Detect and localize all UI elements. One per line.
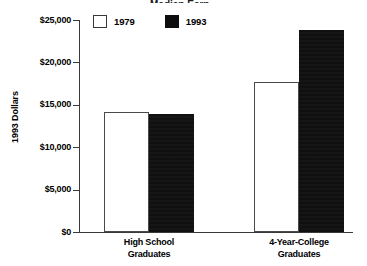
y-axis-tick-label: $20,000 bbox=[0, 58, 71, 67]
bar-1979-college bbox=[254, 82, 299, 232]
y-axis-tick bbox=[73, 232, 79, 233]
open-square-swatch bbox=[93, 15, 107, 28]
y-axis-tick bbox=[73, 62, 79, 63]
category-label-line: Graduates bbox=[239, 249, 359, 261]
category-label-line: Graduates bbox=[89, 249, 209, 261]
category-label-college: 4-Year-CollegeGraduates bbox=[239, 237, 359, 260]
bar-chart: Median Earnings 1993 Dollars $0$5,000$10… bbox=[0, 0, 367, 266]
legend-item-1979[interactable]: 1979 bbox=[93, 15, 135, 28]
y-axis-tick bbox=[73, 20, 79, 21]
filled-square-swatch bbox=[165, 15, 179, 28]
y-axis-tick-label: $25,000 bbox=[0, 16, 71, 25]
y-axis-tick-label: $15,000 bbox=[0, 100, 71, 109]
y-axis-tick bbox=[73, 105, 79, 106]
legend-item-label: 1979 bbox=[114, 17, 135, 27]
y-axis-line bbox=[79, 20, 80, 233]
y-axis-tick bbox=[73, 147, 79, 148]
chart-legend: 19791993 bbox=[93, 15, 206, 28]
bar-1979-high-school bbox=[104, 112, 149, 232]
y-axis-tick-label: $0 bbox=[0, 228, 71, 237]
y-axis-tick-label: $5,000 bbox=[0, 185, 71, 194]
category-label-line: High School bbox=[89, 237, 209, 249]
bar-1993-college bbox=[299, 30, 344, 232]
category-label-high-school: High SchoolGraduates bbox=[89, 237, 209, 260]
category-label-line: 4-Year-College bbox=[239, 237, 359, 249]
legend-item-1993[interactable]: 1993 bbox=[165, 15, 207, 28]
bar-1993-high-school bbox=[149, 114, 194, 232]
y-axis-title: 1993 Dollars bbox=[10, 67, 20, 167]
x-axis-line bbox=[79, 232, 353, 233]
y-axis-tick-label: $10,000 bbox=[0, 143, 71, 152]
y-axis-tick bbox=[73, 190, 79, 191]
chart-title-remnant: Median Earnings bbox=[150, 0, 210, 3]
legend-item-label: 1993 bbox=[186, 17, 207, 27]
